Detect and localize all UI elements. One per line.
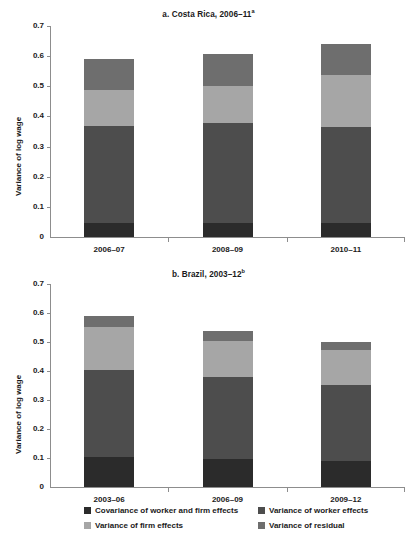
x-category-label-2010–11: 2010–11 xyxy=(291,245,401,254)
panel-b-x-tick-mark xyxy=(287,488,288,492)
panel-b-y-tick-mark xyxy=(47,371,50,372)
panel-b-x-axis-end-tick xyxy=(404,488,405,492)
panel-b-plot-area: 00.10.20.30.40.50.60.72003–062006–092009… xyxy=(50,284,405,487)
panel-b-title-superscript: b xyxy=(242,268,246,274)
panel-a-title: a. Costa Rica, 2006–11a xyxy=(0,8,417,19)
panel-a-y-tick-mark xyxy=(47,147,50,148)
legend-swatch-covariance xyxy=(84,507,91,514)
panel-a-y-tick-label: 0.7 xyxy=(6,21,44,30)
bar-2006–07[interactable] xyxy=(84,59,134,237)
panel-a-y-tick-label: 0.5 xyxy=(6,81,44,90)
x-category-label-2006–07: 2006–07 xyxy=(54,245,164,254)
panel-a-y-tick-mark xyxy=(47,86,50,87)
bar-segment-variance-of-worker-effects xyxy=(321,127,371,223)
legend-swatch-worker xyxy=(258,507,265,514)
bar-segment-variance-of-firm-effects xyxy=(321,75,371,127)
bar-segment-variance-of-worker-effects xyxy=(203,123,253,223)
bar-segment-variance-of-firm-effects xyxy=(203,86,253,123)
panel-a-x-axis-end-tick xyxy=(404,238,405,242)
panel-a-y-tick-label: 0.4 xyxy=(6,111,44,120)
bar-segment-covariance-of-worker-and-firm-effects xyxy=(84,223,134,237)
panel-a-y-tick-mark xyxy=(47,26,50,27)
panel-a-y-axis-label: Variance of log wage xyxy=(14,117,23,196)
panel-b-y-axis-label: Variance of log wage xyxy=(14,375,23,454)
bar-segment-variance-of-worker-effects xyxy=(321,385,371,462)
panel-b-y-tick-mark xyxy=(47,400,50,401)
bar-2009–12[interactable] xyxy=(321,342,371,487)
legend-label-covariance: Covariance of worker and firm effects xyxy=(95,506,238,515)
legend-label-firm: Variance of firm effects xyxy=(95,521,183,530)
panel-b-y-tick-label: 0.5 xyxy=(6,337,44,346)
panel-a-x-tick-mark xyxy=(287,238,288,242)
bar-segment-variance-of-firm-effects xyxy=(84,90,134,127)
panel-a-y-tick-label: 0.3 xyxy=(6,142,44,151)
bar-segment-variance-of-residual xyxy=(84,316,134,327)
x-category-label-2008–09: 2008–09 xyxy=(173,245,283,254)
bar-2008–09[interactable] xyxy=(203,54,253,237)
legend-item-firm[interactable]: Variance of firm effects xyxy=(84,521,183,530)
bar-segment-variance-of-residual xyxy=(321,342,371,350)
bar-2006–09[interactable] xyxy=(203,331,253,487)
panel-a-y-tick-label: 0.2 xyxy=(6,172,44,181)
bar-segment-variance-of-residual xyxy=(203,331,253,341)
legend-label-residual: Variance of residual xyxy=(269,521,345,530)
panel-b-y-tick-label: 0 xyxy=(6,482,44,491)
bar-segment-covariance-of-worker-and-firm-effects xyxy=(203,459,253,487)
panel-a-plot-area: 00.10.20.30.40.50.60.72006–072008–092010… xyxy=(50,26,405,237)
panel-a-y-tick-label: 0.6 xyxy=(6,51,44,60)
panel-a-y-tick-label: 0 xyxy=(6,232,44,241)
bar-segment-covariance-of-worker-and-firm-effects xyxy=(321,461,371,487)
panel-b-y-tick-label: 0.1 xyxy=(6,453,44,462)
panel-b-x-axis-line xyxy=(50,487,405,488)
panel-b-y-tick-label: 0.3 xyxy=(6,395,44,404)
legend-label-worker: Variance of worker effects xyxy=(269,506,368,515)
panel-a-x-tick-mark xyxy=(168,238,169,242)
bar-segment-covariance-of-worker-and-firm-effects xyxy=(84,457,134,487)
panel-a-title-text: a. Costa Rica, 2006–11 xyxy=(162,10,251,19)
chart-panel-brazil: b. Brazil, 2003–12b Variance of log wage… xyxy=(0,262,417,502)
bar-segment-variance-of-residual xyxy=(203,54,253,86)
bar-segment-variance-of-firm-effects xyxy=(203,341,253,378)
panel-b-y-tick-label: 0.6 xyxy=(6,308,44,317)
panel-a-y-tick-mark xyxy=(47,56,50,57)
panel-b-y-tick-label: 0.2 xyxy=(6,424,44,433)
bar-segment-variance-of-firm-effects xyxy=(321,350,371,384)
figure-root: a. Costa Rica, 2006–11a Variance of log … xyxy=(0,0,417,541)
panel-b-y-tick-mark xyxy=(47,458,50,459)
panel-b-x-tick-mark xyxy=(168,488,169,492)
legend-swatch-residual xyxy=(258,522,265,529)
panel-b-y-tick-mark xyxy=(47,429,50,430)
legend-item-covariance[interactable]: Covariance of worker and firm effects xyxy=(84,506,238,515)
panel-b-y-axis-line xyxy=(50,284,51,487)
chart-legend: Covariance of worker and firm effectsVar… xyxy=(0,503,417,541)
panel-a-title-superscript: a xyxy=(251,8,254,14)
chart-panel-costa-rica: a. Costa Rica, 2006–11a Variance of log … xyxy=(0,0,417,262)
bar-segment-variance-of-worker-effects xyxy=(84,370,134,457)
legend-item-worker[interactable]: Variance of worker effects xyxy=(258,506,368,515)
bar-segment-covariance-of-worker-and-firm-effects xyxy=(321,223,371,237)
bar-2010–11[interactable] xyxy=(321,44,371,237)
bar-segment-variance-of-firm-effects xyxy=(84,327,134,369)
panel-b-y-tick-label: 0.4 xyxy=(6,366,44,375)
bar-segment-covariance-of-worker-and-firm-effects xyxy=(203,223,253,237)
legend-swatch-firm xyxy=(84,522,91,529)
panel-b-title-text: b. Brazil, 2003–12 xyxy=(172,270,242,279)
panel-a-y-tick-label: 0.1 xyxy=(6,202,44,211)
panel-b-y-tick-label: 0.7 xyxy=(6,279,44,288)
panel-b-y-tick-mark xyxy=(47,313,50,314)
panel-a-y-tick-mark xyxy=(47,116,50,117)
panel-a-y-tick-mark xyxy=(47,177,50,178)
panel-a-y-axis-line xyxy=(50,26,51,237)
bar-segment-variance-of-residual xyxy=(84,59,134,90)
panel-b-title: b. Brazil, 2003–12b xyxy=(0,268,417,279)
bar-segment-variance-of-worker-effects xyxy=(84,126,134,222)
bar-segment-variance-of-worker-effects xyxy=(203,377,253,458)
bar-segment-variance-of-residual xyxy=(321,44,371,75)
panel-b-y-tick-mark xyxy=(47,342,50,343)
legend-item-residual[interactable]: Variance of residual xyxy=(258,521,345,530)
panel-b-y-tick-mark xyxy=(47,284,50,285)
panel-a-y-tick-mark xyxy=(47,207,50,208)
bar-2003–06[interactable] xyxy=(84,316,134,487)
panel-a-x-axis-line xyxy=(50,237,405,238)
